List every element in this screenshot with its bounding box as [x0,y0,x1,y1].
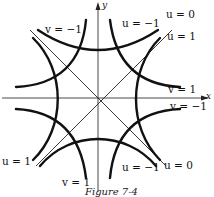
label-u-neg1-top-right: u = −1 [122,18,160,29]
label-v-1-right: v = 1 [168,84,196,95]
label-u-1-top-right: u = 1 [167,31,196,42]
y-axis-label: y [102,1,107,10]
arc-outer-q2 [29,40,59,170]
arc-right-inner [136,38,160,160]
label-u-1-bottom-left: u = 1 [2,156,31,167]
label-u-neg1-bottom: u = −1 [122,162,160,173]
label-v-neg1-top-left: v = −1 [45,24,82,35]
figure-caption: Figure 7-4 [85,186,138,197]
x-axis-label: x [206,92,211,101]
label-v-neg1-right: v = −1 [170,101,207,112]
label-u-0-top-right: u = 0 [166,9,195,20]
label-u-0-bottom: u = 0 [164,160,193,171]
y-axis-arrow-icon [96,2,101,10]
arc-left-inner [33,38,58,160]
